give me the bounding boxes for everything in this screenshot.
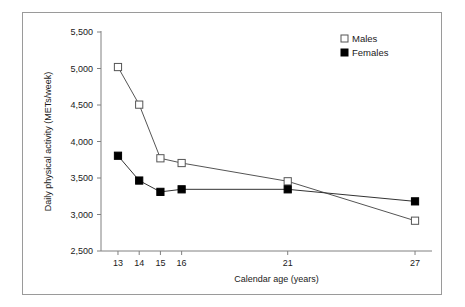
y-axis-tick-label: 5,500 bbox=[70, 27, 93, 37]
data-point-males bbox=[178, 159, 185, 166]
data-point-males bbox=[411, 217, 418, 224]
legend-label-males: Males bbox=[352, 33, 378, 44]
y-axis-tick-label: 5,000 bbox=[70, 64, 93, 74]
x-axis-tick-label: 15 bbox=[155, 258, 165, 268]
data-point-females bbox=[284, 186, 291, 193]
x-axis-tick-label: 13 bbox=[113, 258, 123, 268]
data-point-females bbox=[114, 152, 121, 159]
legend-marker-females bbox=[341, 49, 348, 56]
y-axis: 2,5003,0003,5004,0004,5005,0005,500 bbox=[70, 27, 101, 256]
data-point-males bbox=[157, 155, 164, 162]
x-axis-tick-label: 14 bbox=[134, 258, 144, 268]
data-point-females bbox=[178, 186, 185, 193]
x-axis-tick-label: 21 bbox=[283, 258, 293, 268]
data-point-males bbox=[136, 101, 143, 108]
y-axis-tick-label: 3,000 bbox=[70, 210, 93, 220]
data-point-males bbox=[114, 63, 121, 70]
data-point-females bbox=[411, 198, 418, 205]
data-point-females bbox=[136, 177, 143, 184]
y-axis-tick-label: 4,500 bbox=[70, 100, 93, 110]
y-axis-title: Daily physical activity (METs/week) bbox=[43, 72, 53, 212]
y-axis-tick-label: 3,500 bbox=[70, 173, 93, 183]
line-chart: 2,5003,0003,5004,0004,5005,0005,500 1314… bbox=[23, 13, 441, 294]
y-axis-tick-label: 4,000 bbox=[70, 137, 93, 147]
figure-panel: 2,5003,0003,5004,0004,5005,0005,500 1314… bbox=[22, 12, 442, 295]
legend-marker-males bbox=[341, 35, 348, 42]
data-point-females bbox=[157, 188, 164, 195]
y-axis-tick-label: 2,500 bbox=[70, 246, 93, 256]
x-axis: 131415162127 bbox=[101, 251, 432, 268]
data-series-group bbox=[114, 63, 418, 224]
x-axis-tick-label: 27 bbox=[410, 258, 420, 268]
x-axis-title: Calendar age (years) bbox=[234, 274, 319, 284]
chart-legend: MalesFemales bbox=[341, 33, 389, 58]
data-point-males bbox=[284, 178, 291, 185]
legend-label-females: Females bbox=[352, 47, 389, 58]
x-axis-tick-label: 16 bbox=[177, 258, 187, 268]
series-line-males bbox=[118, 67, 415, 221]
